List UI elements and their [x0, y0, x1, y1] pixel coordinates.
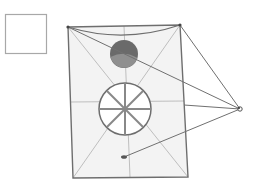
- corner-dot-tr: [178, 23, 181, 26]
- diagram-svg: [0, 0, 255, 184]
- corner-dot-tl: [66, 25, 69, 28]
- diagram-canvas: [0, 0, 255, 184]
- small-square: [6, 15, 47, 54]
- bottom-marker: [121, 155, 127, 159]
- wheel: [99, 83, 151, 135]
- vanishing-point: [238, 107, 242, 111]
